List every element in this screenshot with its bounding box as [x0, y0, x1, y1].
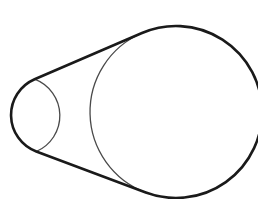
background	[0, 0, 258, 199]
belt-pulley-diagram	[0, 0, 258, 199]
